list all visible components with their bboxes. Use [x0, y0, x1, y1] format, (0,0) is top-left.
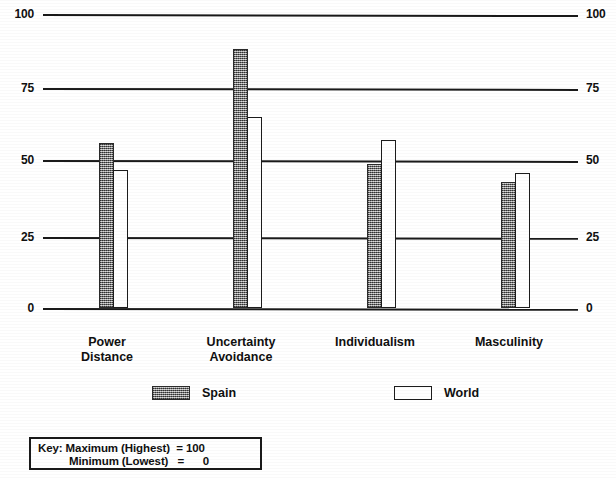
axis-label-right-0: 0 — [586, 302, 616, 314]
chart-legend: Spain World — [0, 386, 616, 406]
bar-chart: 100 75 50 25 0 100 75 50 25 0 Power Dist… — [0, 0, 616, 478]
plot-area — [43, 14, 578, 308]
axis-label-right-100: 100 — [586, 8, 616, 20]
gridline-75 — [43, 88, 578, 91]
legend-entry-world: World — [394, 386, 479, 400]
axis-label-right-75: 75 — [586, 82, 616, 94]
category-label-masculinity: Masculinity — [434, 335, 584, 350]
axis-label-left-25: 25 — [2, 231, 34, 243]
key-box: Key: Maximum (Highest) = 100 Minimum (Lo… — [29, 437, 262, 470]
key-line-maximum: Key: Maximum (Highest) = 100 — [38, 442, 254, 455]
legend-entry-spain: Spain — [152, 386, 236, 400]
category-label-line1: Uncertainty — [207, 335, 276, 349]
category-label-line1: Masculinity — [475, 335, 543, 349]
axis-label-left-50: 50 — [2, 154, 34, 166]
bar-world-individualism — [381, 140, 396, 308]
legend-swatch-spain-icon — [152, 386, 190, 400]
axis-label-left-0: 0 — [2, 302, 34, 314]
bar-spain-masculinity — [501, 182, 516, 308]
bar-world-power-distance — [113, 170, 128, 308]
gridline-50 — [43, 160, 578, 163]
bar-world-masculinity — [515, 173, 530, 308]
axis-baseline — [43, 308, 578, 311]
axis-label-left-75: 75 — [2, 82, 34, 94]
legend-label-spain: Spain — [202, 386, 236, 400]
bar-spain-power-distance — [99, 143, 114, 308]
category-label-line1: Individualism — [335, 335, 415, 349]
bar-world-uncertainty-avoidance — [247, 117, 262, 308]
bar-spain-uncertainty-avoidance — [233, 49, 248, 308]
axis-label-right-25: 25 — [586, 231, 616, 243]
gridline-100 — [43, 14, 578, 17]
legend-swatch-world-icon — [394, 386, 432, 400]
axis-label-right-50: 50 — [586, 154, 616, 166]
bar-spain-individualism — [367, 164, 382, 308]
legend-label-world: World — [444, 386, 479, 400]
category-label-power-distance: Power Distance — [32, 335, 182, 365]
category-label-line2: Distance — [32, 350, 182, 365]
key-line-minimum: Minimum (Lowest) = 0 — [38, 455, 254, 468]
category-label-line2: Avoidance — [166, 350, 316, 365]
category-label-line1: Power — [88, 335, 126, 349]
category-label-uncertainty-avoidance: Uncertainty Avoidance — [166, 335, 316, 365]
category-label-individualism: Individualism — [300, 335, 450, 350]
axis-label-left-100: 100 — [2, 8, 34, 20]
